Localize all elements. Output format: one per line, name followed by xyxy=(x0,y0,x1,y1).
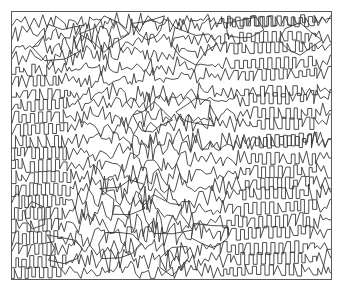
contour-field-svg xyxy=(0,0,345,293)
figure-root xyxy=(0,0,345,293)
